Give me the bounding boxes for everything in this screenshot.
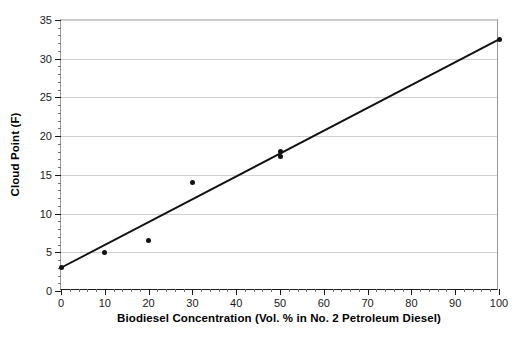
data-points — [61, 20, 497, 289]
y-tick-label-20: 20 — [40, 131, 52, 142]
x-tick-label-90: 90 — [449, 298, 461, 309]
x-tick-label-0: 0 — [58, 298, 64, 309]
x-tick-label-70: 70 — [361, 298, 373, 309]
x-tick-label-80: 80 — [405, 298, 417, 309]
y-tick-label-25: 25 — [40, 92, 52, 103]
x-tick-label-20: 20 — [142, 298, 154, 309]
y-tick-label-15: 15 — [40, 169, 52, 180]
x-tick-label-100: 100 — [490, 298, 508, 309]
y-tick-label-10: 10 — [40, 208, 52, 219]
data-point — [497, 37, 502, 42]
x-tick-label-40: 40 — [230, 298, 242, 309]
data-point — [278, 154, 283, 159]
y-axis-title: Cloud Point (F) — [7, 19, 23, 290]
x-tick-label-50: 50 — [274, 298, 286, 309]
y-tick-label-30: 30 — [40, 53, 52, 64]
x-axis-title: Biodiesel Concentration (Vol. % in No. 2… — [60, 312, 498, 324]
plot-area: 05101520253035 0102030405060708090100 — [60, 19, 498, 290]
x-tick-label-10: 10 — [99, 298, 111, 309]
data-point — [190, 180, 195, 185]
x-tick-label-30: 30 — [186, 298, 198, 309]
data-point — [146, 238, 151, 243]
y-tick-label-5: 5 — [46, 247, 52, 258]
x-tick-label-60: 60 — [318, 298, 330, 309]
x-tick-major-100 — [499, 289, 500, 295]
data-point — [102, 250, 107, 255]
chart-figure: Cloud Point (F) 05101520253035 010203040… — [0, 0, 522, 338]
y-tick-label-0: 0 — [46, 286, 52, 297]
data-point — [59, 265, 64, 270]
y-tick-label-35: 35 — [40, 15, 52, 26]
